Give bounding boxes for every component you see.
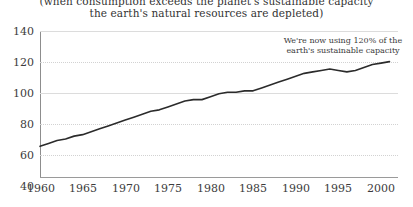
y-tick-60: 60 [0,149,34,162]
x-tick-1980: 1980 [197,182,225,195]
y-axis-tick-labels: 140 120 100 80 60 40 [0,0,36,207]
callout-line-2: earth's sustainable capacity [277,46,409,56]
x-tick-1970: 1970 [112,182,140,195]
chart-title-line-2: the earth's natural resources are deplet… [0,7,413,19]
x-tick-1960: 1960 [27,182,55,195]
chart-container: (when consumption exceeds the planet's s… [0,0,413,207]
chart-title-line-1: (when consumption exceeds the planet's s… [0,0,413,7]
x-tick-1965: 1965 [69,182,97,195]
y-tick-80: 80 [0,118,34,131]
y-tick-100: 100 [0,87,34,100]
y-tick-140: 140 [0,25,34,38]
x-tick-2000: 2000 [367,182,395,195]
series-line-ecological-footprint [40,62,389,147]
x-tick-1975: 1975 [154,182,182,195]
x-tick-1990: 1990 [282,182,310,195]
footprint-callout-annotation: We're now using 120% of the earth's sust… [277,36,409,56]
chart-title: (when consumption exceeds the planet's s… [0,0,413,19]
x-tick-1995: 1995 [324,182,352,195]
callout-line-1: We're now using 120% of the [277,36,409,46]
x-tick-1985: 1985 [239,182,267,195]
x-axis-line [40,177,398,178]
y-tick-120: 120 [0,56,34,69]
